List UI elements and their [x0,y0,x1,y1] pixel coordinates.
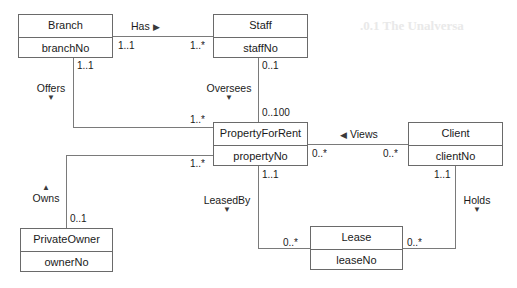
relationship-label-offers: Offers ▼ [31,82,71,102]
multiplicity-client-views: 0..* [383,148,398,159]
connector-has [113,36,213,37]
relationship-label-holds: Holds ▼ [459,194,495,214]
connector-oversees [258,58,259,122]
relationship-label-has: Has ▶ [131,20,160,32]
multiplicity-property-oversees: 0..100 [262,107,290,118]
connector-holds-horizontal [403,248,456,249]
entity-client-attribute: clientNo [409,145,502,167]
connector-holds-vertical [455,166,456,249]
multiplicity-staff-oversees: 0..1 [262,60,279,71]
entity-staff-attribute: staffNo [214,37,307,59]
triangle-down-icon: ▼ [200,206,254,214]
multiplicity-property-leasedby: 1..1 [262,169,279,180]
entity-privateowner[interactable]: PrivateOwner ownerNo [20,228,113,272]
entity-client-name: Client [409,123,502,145]
connector-owns-horizontal [66,155,213,156]
triangle-left-icon: ◀ [340,130,347,140]
connector-leasedby-vertical [258,166,259,249]
connector-views [308,144,408,145]
entity-propertyforrent[interactable]: PropertyForRent propertyNo [213,122,308,166]
multiplicity-staff-has: 1..* [190,40,205,51]
multiplicity-property-owns: 1..* [190,158,205,169]
triangle-down-icon: ▼ [459,206,495,214]
relationship-owns-text: Owns [28,192,64,204]
connector-offers-horizontal [73,127,213,128]
entity-branch[interactable]: Branch branchNo [18,14,113,58]
relationship-has-text: Has [131,20,150,32]
page-bleed-text [300,62,303,73]
entity-client[interactable]: Client clientNo [408,122,503,166]
multiplicity-lease-leasedby: 0..* [283,237,298,248]
triangle-down-icon: ▼ [203,94,255,102]
multiplicity-property-offers: 1..* [190,114,205,125]
multiplicity-property-views: 0..* [312,148,327,159]
relationship-label-views: ◀ Views [340,128,378,140]
multiplicity-owner-owns: 0..1 [70,213,87,224]
triangle-up-icon: ▲ [28,184,64,192]
er-diagram-canvas: .0.1 The Unalversa Branch branchNo Staff… [0,0,517,288]
page-bleed-text [330,52,333,63]
page-bleed-text: .0.1 The Unalversa [360,18,464,34]
entity-propertyforrent-attribute: propertyNo [214,145,307,167]
multiplicity-branch-has: 1..1 [118,40,135,51]
multiplicity-branch-offers: 1..1 [77,60,94,71]
connector-owns-vertical [66,155,67,229]
triangle-down-icon: ▼ [31,94,71,102]
multiplicity-lease-holds: 0..* [407,237,422,248]
entity-lease-name: Lease [311,227,402,249]
connector-offers-vertical [73,58,74,128]
relationship-views-text: Views [350,128,378,140]
entity-staff-name: Staff [214,15,307,37]
entity-lease[interactable]: Lease leaseNo [310,226,403,270]
relationship-label-leasedby: LeasedBy ▼ [200,194,254,214]
relationship-label-oversees: Oversees ▼ [203,82,255,102]
entity-branch-name: Branch [19,15,112,37]
connector-leasedby-horizontal [258,248,311,249]
entity-lease-attribute: leaseNo [311,249,402,271]
entity-privateowner-attribute: ownerNo [21,251,112,273]
entity-propertyforrent-name: PropertyForRent [214,123,307,145]
triangle-right-icon: ▶ [153,22,160,32]
entity-branch-attribute: branchNo [19,37,112,59]
relationship-label-owns: ▲ Owns [28,184,64,204]
entity-staff[interactable]: Staff staffNo [213,14,308,58]
multiplicity-client-holds: 1..1 [434,169,451,180]
entity-privateowner-name: PrivateOwner [21,229,112,251]
